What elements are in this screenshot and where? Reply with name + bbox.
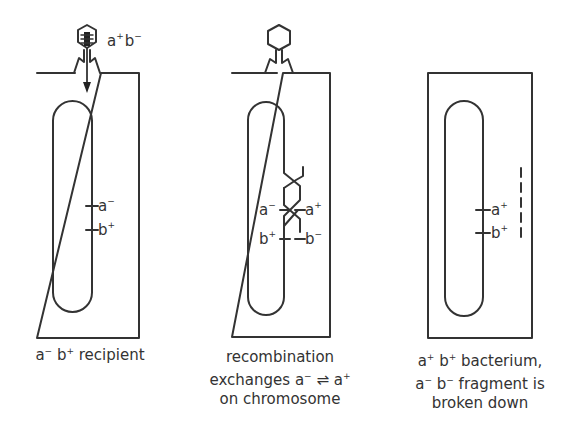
caption-recipient: a− b+ recipient	[10, 342, 170, 365]
caption-recombination: recombination exchanges a− ⇌ a+ on chrom…	[180, 348, 380, 409]
marker-a-plus: a+	[491, 200, 508, 219]
marker-a-plus: a+	[305, 200, 322, 219]
phage-genotype-label: a+b−	[107, 31, 142, 50]
caption-result: a+ b+ bacterium, a− b− fragment is broke…	[380, 348, 576, 413]
phage-empty	[265, 25, 293, 73]
phage-injecting	[74, 25, 100, 93]
marker-b-plus: b+	[98, 220, 115, 239]
cell-wall	[428, 73, 532, 338]
panel-recombination	[232, 25, 330, 337]
marker-b-plus: b+	[259, 229, 276, 248]
panel-recipient	[37, 25, 139, 338]
marker-b-minus: b−	[305, 229, 322, 248]
marker-a-minus: a−	[259, 200, 276, 219]
marker-a-minus: a−	[98, 196, 115, 215]
chromosome	[445, 101, 483, 316]
marker-b-plus: b+	[491, 223, 508, 242]
panel-result	[428, 73, 532, 338]
